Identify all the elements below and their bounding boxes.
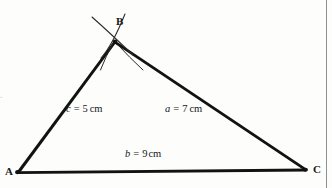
side-b-unit: cm xyxy=(148,148,160,159)
side-a-value: 7 xyxy=(182,103,187,114)
vertex-label-a: A xyxy=(5,166,13,177)
side-label-b: b=9cm xyxy=(125,149,161,160)
construction-arc-from-c xyxy=(92,17,133,55)
vertex-label-c: C xyxy=(313,164,321,175)
side-c-equals: = xyxy=(74,103,80,114)
page-border-line xyxy=(326,0,327,188)
vertex-b-point xyxy=(113,40,118,44)
side-label-a: a=7cm xyxy=(165,104,202,115)
margin-scan-artifact: . xyxy=(0,88,6,101)
side-a-equals: = xyxy=(173,103,179,114)
side-c-unit: cm xyxy=(90,103,102,114)
side-b-line xyxy=(17,169,306,174)
vertex-label-b: B xyxy=(116,16,123,27)
side-a-unit: cm xyxy=(189,103,201,114)
side-a-symbol: a xyxy=(165,103,170,114)
vertex-c-point xyxy=(303,168,308,172)
side-c-value: 5 xyxy=(83,103,88,114)
figure-canvas: A B C c=5cm a=7cm b=9cm . xyxy=(0,0,332,188)
side-c-symbol: c xyxy=(66,103,71,114)
side-b-symbol: b xyxy=(125,148,130,159)
side-b-equals: = xyxy=(133,148,139,159)
side-b-value: 9 xyxy=(142,148,147,159)
vertex-a-point xyxy=(15,170,20,174)
side-label-c: c=5cm xyxy=(66,104,102,115)
triangle-diagram xyxy=(0,0,332,188)
